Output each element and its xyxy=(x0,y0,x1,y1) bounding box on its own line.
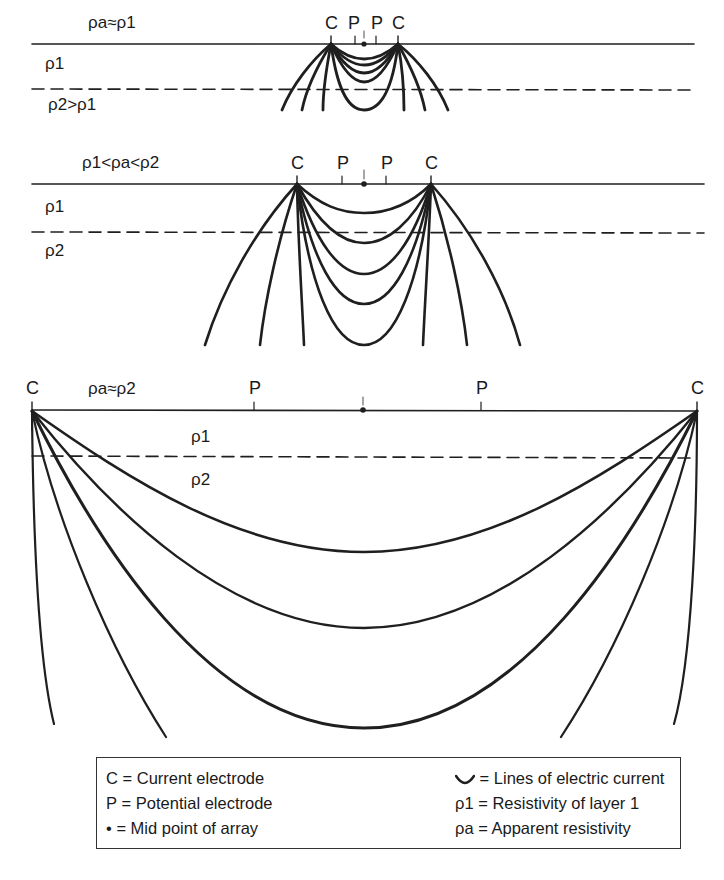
midpoint-dot xyxy=(361,41,366,46)
electrode-label-p: P xyxy=(337,153,349,173)
electrode-label-c: C xyxy=(392,13,405,33)
legend-column-right: = Lines of electric current ρ1 = Resisti… xyxy=(455,766,664,841)
layer1-label: ρ1 xyxy=(191,427,210,446)
legend-text: = Mid point of array xyxy=(116,819,258,837)
electrode-label-p: P xyxy=(348,13,360,33)
midpoint-dot xyxy=(361,181,367,187)
electrode-label-p: P xyxy=(371,13,383,33)
electrode-label-p: P xyxy=(476,378,488,398)
current-lines xyxy=(205,184,520,345)
layer-interface xyxy=(32,456,690,458)
panel-small-spacing xyxy=(32,31,694,110)
legend-text: = Potential electrode xyxy=(122,794,273,812)
panel-medium-spacing xyxy=(32,170,704,345)
electrode-label-c: C xyxy=(291,153,304,173)
electrode-label-p: P xyxy=(381,153,393,173)
legend-item-potential-electrode: P = Potential electrode xyxy=(106,791,273,816)
apparent-resistivity-label: ρa≈ρ2 xyxy=(88,379,136,398)
legend-item-current-electrode: C = Current electrode xyxy=(106,766,273,791)
legend-item-apparent-resistivity: ρa = Apparent resistivity xyxy=(455,816,664,841)
electrode-label-p: P xyxy=(249,378,261,398)
legend-text: = Lines of electric current xyxy=(480,769,665,787)
legend-text: = Current electrode xyxy=(123,769,265,787)
electrode-label-c: C xyxy=(691,378,704,398)
legend-item-midpoint: • = Mid point of array xyxy=(106,816,273,841)
layer-interface xyxy=(32,232,704,233)
rhoa-symbol: ρa xyxy=(455,816,474,841)
apparent-resistivity-label: ρa≈ρ1 xyxy=(88,13,136,32)
apparent-resistivity-label: ρ1<ρa<ρ2 xyxy=(82,153,159,172)
current-lines xyxy=(32,411,697,737)
current-electrode-symbol: C xyxy=(106,766,118,791)
legend-column-left: C = Current electrode P = Potential elec… xyxy=(106,766,273,841)
legend-item-current-lines: = Lines of electric current xyxy=(455,766,664,791)
legend-text: = Resistivity of layer 1 xyxy=(478,794,639,812)
midpoint-dot xyxy=(360,407,366,413)
electrode-label-c: C xyxy=(26,378,39,398)
current-lines xyxy=(282,44,448,110)
resistivity-diagram: ρa≈ρ1 ρ1 ρ2>ρ1 C P P C ρ1<ρa<ρ2 ρ1 ρ2 C … xyxy=(0,0,724,880)
current-line-curve-icon xyxy=(455,774,475,786)
layer2-label: ρ2 xyxy=(191,470,210,489)
electrode-label-c: C xyxy=(425,153,438,173)
layer1-label: ρ1 xyxy=(45,197,64,216)
layer2-label: ρ2 xyxy=(45,241,64,260)
legend-box: C = Current electrode P = Potential elec… xyxy=(96,757,681,849)
legend-item-layer1-resistivity: ρ1 = Resistivity of layer 1 xyxy=(455,791,664,816)
layer2-label: ρ2>ρ1 xyxy=(48,95,96,114)
potential-electrode-symbol: P xyxy=(106,791,117,816)
layer1-label: ρ1 xyxy=(45,54,64,73)
layer-interface xyxy=(32,89,694,90)
electrode-label-c: C xyxy=(325,13,338,33)
legend-text: = Apparent resistivity xyxy=(478,819,631,837)
midpoint-dot-icon: • xyxy=(106,816,112,841)
rho1-symbol: ρ1 xyxy=(455,791,474,816)
panel-large-spacing xyxy=(32,397,697,737)
